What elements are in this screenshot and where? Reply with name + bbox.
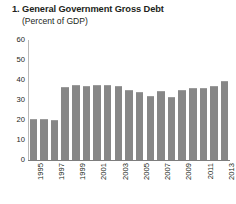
x-axis-line [28, 160, 230, 161]
y-axis-tick-label: 20 [17, 116, 25, 124]
x-axis-tick-label: 2013 [228, 163, 236, 180]
x-axis-tick-label: 2007 [164, 163, 172, 180]
plot-area: 0102030405060 [28, 40, 230, 160]
bar [136, 92, 143, 160]
chart-title: 1. General Government Gross Debt [12, 4, 164, 14]
bar [210, 86, 217, 160]
bar [61, 87, 68, 160]
bar [72, 85, 79, 160]
y-axis-tick-label: 50 [17, 56, 25, 64]
x-axis-tick-label: 1999 [79, 163, 87, 180]
bar [221, 81, 228, 160]
y-axis-tick-label: 60 [17, 36, 25, 44]
bar [40, 119, 47, 160]
x-axis-tick-label: 2011 [207, 163, 215, 179]
y-axis-tick-label: 0 [21, 156, 25, 164]
bar [147, 96, 154, 160]
x-axis-tick-label: 2001 [100, 163, 108, 180]
bar [157, 91, 164, 160]
x-axis-tick-label: 2003 [122, 163, 130, 180]
bar [30, 119, 37, 160]
x-axis-tick-label: 2005 [143, 163, 151, 180]
x-axis-tick-label: 1997 [58, 163, 66, 180]
bar [125, 90, 132, 160]
y-axis-tick-label: 10 [17, 136, 25, 144]
bar [51, 120, 58, 160]
y-axis-tick-label: 40 [17, 76, 25, 84]
bar [200, 88, 207, 160]
bar [93, 85, 100, 160]
chart-subtitle: (Percent of GDP) [22, 16, 88, 26]
bar [168, 97, 175, 160]
x-axis-tick-label: 2009 [185, 163, 193, 180]
bar [115, 86, 122, 160]
chart-panel: 1. General Government Gross Debt (Percen… [0, 0, 236, 204]
x-axis-tick-label: 1995 [37, 163, 45, 180]
bar [83, 86, 90, 160]
bar [178, 90, 185, 160]
bar [104, 85, 111, 160]
bar [189, 88, 196, 160]
y-axis-tick-label: 30 [17, 96, 25, 104]
